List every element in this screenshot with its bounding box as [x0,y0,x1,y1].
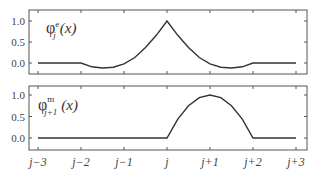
x-tick-label: j+1 [199,155,218,169]
top-curve-phi-e [38,21,296,68]
bottom-x-ticks [38,86,296,150]
bottom-function-label: φmj+1(x) [38,94,78,117]
chart-canvas: 0.00.51.0 φej(x) 0.00.51.0 φmj+1(x) j−3j… [0,0,316,173]
y-tick-label: 0.0 [11,57,25,69]
x-tick-label: j−3 [27,155,46,169]
bottom-panel-frame [29,86,307,150]
x-axis-labels: j−3j−2j−1jj+1j+2j+3 [27,155,304,169]
y-tick-label: 1.0 [11,15,25,27]
x-tick-label: j−1 [113,155,132,169]
x-tick-label: j+3 [285,155,304,169]
top-panel: 0.00.51.0 φej(x) [11,10,307,74]
x-tick-label: j [163,155,169,169]
y-tick-label: 0.5 [11,111,25,123]
y-tick-label: 1.0 [11,89,25,101]
top-function-label: φej(x) [46,19,76,40]
x-tick-label: j−2 [70,155,89,169]
y-tick-label: 0.0 [11,132,25,144]
y-tick-label: 0.5 [11,36,25,48]
top-x-ticks [38,10,296,74]
x-tick-label: j+2 [242,155,261,169]
bottom-panel: 0.00.51.0 φmj+1(x) [11,86,307,150]
